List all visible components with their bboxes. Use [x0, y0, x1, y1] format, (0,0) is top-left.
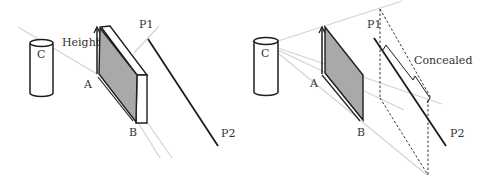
left-panel: C Height A B P1 P2 — [18, 18, 235, 158]
p1-label: P1 — [367, 18, 381, 31]
camera-label: C — [261, 47, 269, 60]
point-b-label: B — [129, 126, 137, 139]
ray-line — [278, 1, 402, 41]
plane-line — [148, 39, 218, 146]
occlusion-diagram: C Height A B P1 P2 C — [0, 0, 477, 186]
ray-line — [147, 122, 172, 158]
concealed-label: Concealed — [414, 54, 472, 67]
p2-label: P2 — [221, 127, 235, 140]
point-b-label: B — [357, 126, 365, 139]
p1-label: P1 — [139, 18, 153, 31]
obstacle-panel — [319, 27, 363, 121]
point-a-label: A — [83, 78, 93, 91]
camera-label: C — [37, 48, 45, 61]
obstacle-box — [98, 26, 147, 123]
diagram: C Height A B P1 P2 C — [0, 0, 477, 186]
height-label: Height — [62, 36, 101, 49]
p2-label: P2 — [450, 127, 464, 140]
ray-line — [139, 124, 160, 158]
right-panel: C A B P1 P2 Concealed — [254, 1, 472, 175]
point-a-label: A — [309, 77, 319, 90]
